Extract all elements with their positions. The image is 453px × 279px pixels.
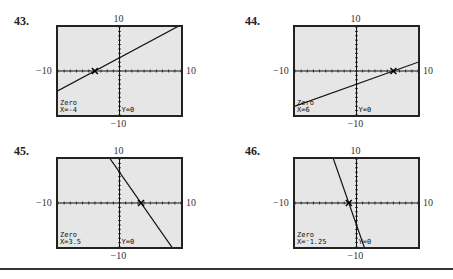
calculator-screen: Zero X=3.5 Y=0 [56,157,183,249]
problem-number: 44. [245,14,260,29]
x-min-label: −10 [36,65,52,76]
y-min-label: −10 [348,118,364,129]
y-min-label: −10 [111,118,127,129]
x-max-label: 10 [186,197,196,208]
y-min-label: −10 [111,250,127,261]
problem-number: 43. [14,14,29,29]
screen-x-value: X=3.5 [60,239,81,246]
x-min-label: −10 [273,197,289,208]
bottom-rule [0,268,453,270]
y-max-label: 10 [351,145,361,156]
screen-y-value: Y=0 [359,239,372,246]
problem-number: 46. [245,144,260,159]
y-max-label: 10 [114,13,124,24]
calculator-screen: Zero X=-4 Y=0 [56,25,183,117]
screen-y-value: Y=0 [359,107,372,114]
x-max-label: 10 [186,65,196,76]
screen-x-value: X=⁻1.25 [297,239,327,246]
calculator-screen: Zero X=6 Y=0 [293,25,420,117]
screen-y-value: Y=0 [122,107,135,114]
calculator-screen: Zero X=⁻1.25 Y=0 [293,157,420,249]
x-min-label: −10 [273,65,289,76]
x-min-label: −10 [36,197,52,208]
screen-x-value: X=6 [297,107,310,114]
x-max-label: 10 [423,197,433,208]
screen-x-value: X=-4 [60,107,77,114]
problem-number: 45. [14,144,29,159]
y-min-label: −10 [348,250,364,261]
y-max-label: 10 [114,145,124,156]
y-max-label: 10 [351,13,361,24]
x-max-label: 10 [423,65,433,76]
screen-y-value: Y=0 [122,239,135,246]
